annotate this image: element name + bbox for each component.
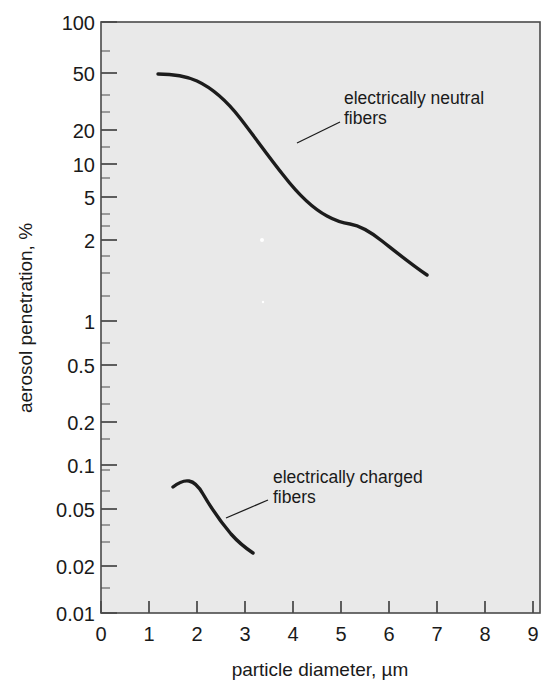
- y-tick-label: 0.01: [56, 603, 95, 625]
- x-tick-label: 4: [287, 623, 298, 645]
- x-tick-label: 9: [527, 623, 538, 645]
- y-tick-label: 10: [73, 154, 95, 176]
- annotation-neutral-line1: electrically neutral: [344, 88, 484, 108]
- x-tick-label: 0: [95, 623, 106, 645]
- x-axis-title: particle diameter, µm: [232, 659, 409, 680]
- y-tick-label: 100: [62, 12, 95, 34]
- y-tick-label: 5: [84, 187, 95, 209]
- chart-svg: 100 50 20 10 5 2 1 0.5 0.2 0.1 0.05 0.02…: [0, 0, 553, 694]
- y-tick-label: 0.1: [67, 455, 95, 477]
- y-tick-label: 50: [73, 63, 95, 85]
- annotation-charged-line2: fibers: [273, 487, 316, 507]
- plot-area-background: [101, 22, 540, 613]
- y-tick-label: 1: [84, 311, 95, 333]
- scan-artifact-speck: [260, 238, 264, 242]
- x-tick-label: 6: [383, 623, 394, 645]
- y-axis-title: aerosol penetration, %: [15, 223, 36, 413]
- x-tick-label: 8: [479, 623, 490, 645]
- x-tick-label: 7: [431, 623, 442, 645]
- scan-artifact-speck: [262, 301, 264, 303]
- y-tick-label: 0.5: [67, 355, 95, 377]
- y-tick-label: 0.2: [67, 412, 95, 434]
- y-tick-label: 0.05: [56, 499, 95, 521]
- annotation-charged-line1: electrically charged: [273, 467, 423, 487]
- y-tick-label: 0.02: [56, 556, 95, 578]
- x-tick-label: 1: [143, 623, 154, 645]
- x-tick-label: 5: [335, 623, 346, 645]
- y-tick-label: 20: [73, 120, 95, 142]
- chart-figure: 100 50 20 10 5 2 1 0.5 0.2 0.1 0.05 0.02…: [0, 0, 553, 694]
- annotation-neutral-line2: fibers: [344, 108, 387, 128]
- y-tick-label: 2: [84, 230, 95, 252]
- x-tick-label: 2: [191, 623, 202, 645]
- x-tick-label: 3: [239, 623, 250, 645]
